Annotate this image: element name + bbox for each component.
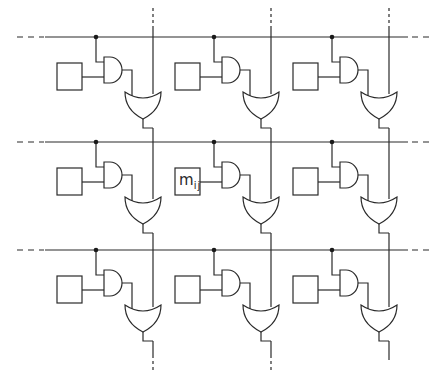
cell-r2-c0 bbox=[57, 248, 161, 341]
memory-cell-box bbox=[57, 63, 82, 90]
cell-r0-c1 bbox=[175, 35, 279, 128]
memory-cell-box bbox=[175, 63, 200, 90]
cell-r2-c1 bbox=[175, 248, 279, 341]
and-or-gate-unit bbox=[82, 140, 161, 233]
and-or-gate-unit bbox=[318, 248, 397, 341]
and-or-gate-unit bbox=[200, 35, 279, 128]
circuit-diagram bbox=[0, 0, 440, 386]
memory-cell-box bbox=[175, 276, 200, 303]
memory-cell-label: mij bbox=[179, 170, 201, 189]
cell-r2-c2 bbox=[293, 248, 397, 341]
memory-cell-box bbox=[57, 276, 82, 303]
memory-cell-label-main: m bbox=[179, 171, 194, 189]
row-2 bbox=[57, 140, 397, 233]
cell-r1-c0 bbox=[57, 140, 161, 233]
and-or-gate-unit bbox=[200, 140, 279, 233]
cell-r0-c2 bbox=[293, 35, 397, 128]
and-or-gate-unit bbox=[318, 35, 397, 128]
memory-cell-box bbox=[293, 276, 318, 303]
and-or-gate-unit bbox=[82, 248, 161, 341]
and-or-gate-unit bbox=[82, 35, 161, 128]
and-or-gate-unit bbox=[200, 248, 279, 341]
row-1 bbox=[57, 35, 397, 128]
and-or-gate-unit bbox=[318, 140, 397, 233]
memory-cell-box bbox=[57, 168, 82, 195]
cell-r0-c0 bbox=[57, 35, 161, 128]
memory-cell-box bbox=[293, 63, 318, 90]
memory-cell-label-subscript: ij bbox=[194, 180, 202, 191]
row-3 bbox=[57, 248, 397, 341]
cell-r1-c2 bbox=[293, 140, 397, 233]
memory-cell-box bbox=[293, 168, 318, 195]
